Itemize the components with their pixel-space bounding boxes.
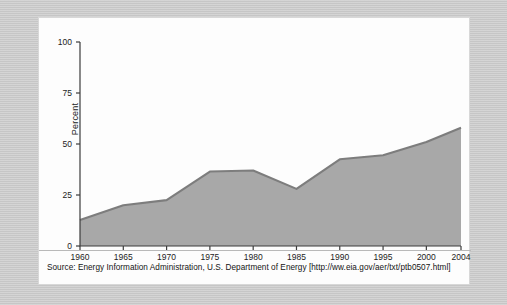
y-axis-tick-label: 75 — [46, 88, 72, 98]
y-axis-tick-label: 100 — [46, 37, 72, 47]
chart-plot-area: Percent 02550751001960196519701975198019… — [39, 18, 471, 250]
y-axis-tick-label: 50 — [46, 139, 72, 149]
area-chart-svg — [39, 18, 471, 250]
figure-frame: Percent 02550751001960196519701975198019… — [0, 0, 507, 305]
area-fill — [80, 128, 461, 246]
source-note-text: Source: Energy Information Administratio… — [39, 263, 451, 272]
figure-panel: Percent 02550751001960196519701975198019… — [38, 17, 470, 285]
y-axis-tick-label: 25 — [46, 190, 72, 200]
y-axis-tick-label: 0 — [46, 241, 72, 251]
source-note-bar: Source: Energy Information Administratio… — [39, 250, 471, 284]
